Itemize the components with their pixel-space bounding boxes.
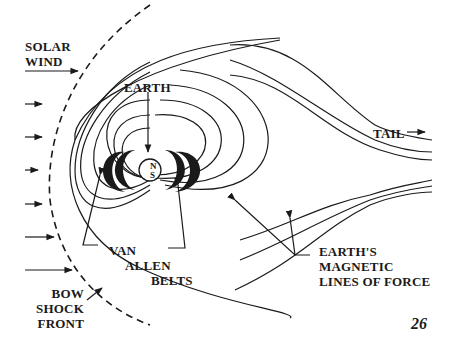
van-allen-line-2: ALLEN (109, 258, 193, 273)
south-pole-label: S (150, 171, 155, 180)
van-allen-line-1: VAN (109, 243, 193, 258)
magnetic-lines-line-3: LINES OF FORCE (319, 274, 430, 289)
earth-label: EARTH (124, 80, 171, 95)
magnetic-lines-line-2: MAGNETIC (319, 259, 430, 274)
van-allen-label: VAN ALLEN BELTS (109, 243, 193, 288)
van-allen-line-3: BELTS (109, 273, 193, 288)
page-number: 26 (411, 315, 427, 333)
magnetic-lines-line-1: EARTH'S (319, 244, 430, 259)
solar-wind-label: SOLAR WIND (25, 39, 71, 69)
bow-shock-line-2: SHOCK (32, 301, 84, 316)
bow-shock-line-1: BOW (32, 286, 84, 301)
solar-wind-line-2: WIND (25, 54, 71, 69)
solar-wind-line-1: SOLAR (25, 39, 71, 54)
bow-shock-line-3: FRONT (32, 316, 84, 331)
magnetic-lines-label: EARTH'S MAGNETIC LINES OF FORCE (319, 244, 430, 289)
tail-label: TAIL (373, 126, 405, 141)
bow-shock-label: BOW SHOCK FRONT (32, 286, 84, 331)
